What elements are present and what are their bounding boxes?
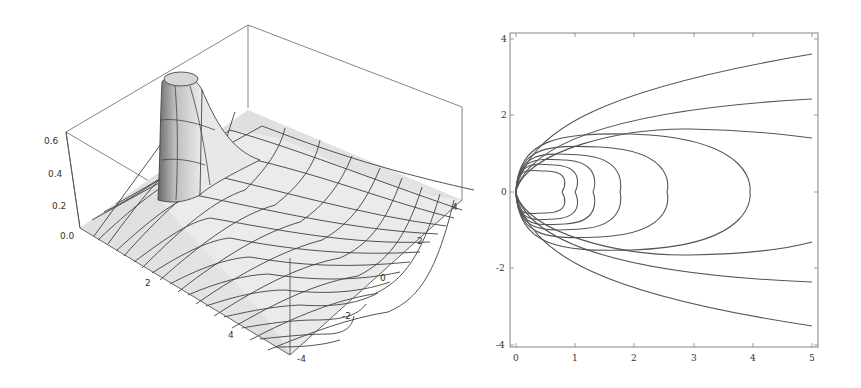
x-tick-3: 3 bbox=[691, 353, 697, 363]
z-tick-0.2: 0.2 bbox=[52, 201, 66, 211]
y-tick-labels: 4 2 0 -2 -4 bbox=[496, 34, 507, 350]
y-ticks bbox=[510, 39, 818, 345]
x-tick-1: 1 bbox=[572, 353, 578, 363]
plot-frame bbox=[510, 33, 818, 347]
z-axis: 0.6 0.4 0.2 0.0 bbox=[44, 132, 80, 241]
contour-open-curves bbox=[516, 54, 812, 326]
x-tick-0: 0 bbox=[513, 353, 519, 363]
y-tick-neg4: -4 bbox=[297, 354, 306, 364]
surface-plot-3d: 0.6 0.4 0.2 0.0 2 4 -4 -2 0 2 4 bbox=[44, 25, 474, 364]
z-tick-0.4: 0.4 bbox=[48, 169, 63, 179]
y-tick-4: 4 bbox=[501, 34, 507, 44]
figure: 0.6 0.4 0.2 0.0 2 4 -4 -2 0 2 4 bbox=[0, 0, 861, 388]
y-tick-neg2: -2 bbox=[496, 263, 505, 273]
x-tick-4: 4 bbox=[228, 330, 234, 340]
y-tick-2: 2 bbox=[501, 110, 507, 120]
x-tick-5: 5 bbox=[809, 353, 815, 363]
x-tick-2: 2 bbox=[631, 353, 637, 363]
x-tick-4: 4 bbox=[750, 353, 756, 363]
contour-plot: 0 1 2 3 4 5 4 2 0 -2 -4 bbox=[496, 33, 818, 363]
y-tick-2: 2 bbox=[417, 236, 423, 246]
z-tick-0.6: 0.6 bbox=[44, 136, 59, 146]
x-tick-labels: 0 1 2 3 4 5 bbox=[513, 353, 815, 363]
y-tick-neg4: -4 bbox=[496, 340, 505, 350]
z-tick-0.0: 0.0 bbox=[60, 231, 75, 241]
y-tick-0: 0 bbox=[380, 273, 386, 283]
x-tick-2: 2 bbox=[145, 278, 151, 288]
y-tick-4: 4 bbox=[452, 202, 458, 212]
y-tick-neg2: -2 bbox=[342, 311, 351, 321]
y-tick-0: 0 bbox=[501, 187, 507, 197]
x-ticks bbox=[516, 33, 812, 347]
